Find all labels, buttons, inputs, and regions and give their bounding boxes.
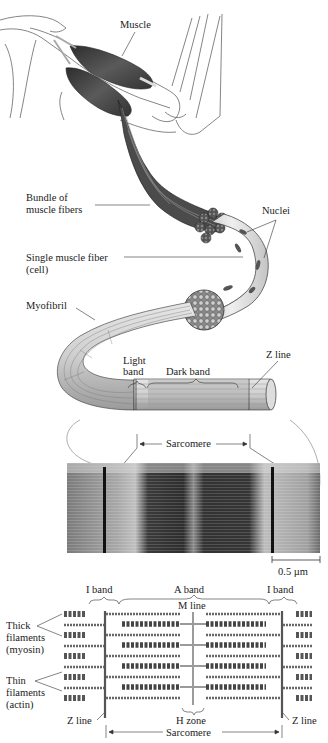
label-thick-line2: filaments xyxy=(6,632,45,644)
sarcomere-schematic xyxy=(64,611,312,718)
label-fiber-line2: (cell) xyxy=(26,264,48,276)
label-thick-line3: (myosin) xyxy=(6,644,44,656)
label-muscle: Muscle xyxy=(120,19,151,31)
label-thin-line2: filaments xyxy=(6,687,45,699)
myosin-filaments xyxy=(64,614,312,698)
label-fiber-line1: Single muscle fiber xyxy=(26,252,108,264)
label-bundle-line2: muscle fibers xyxy=(26,204,82,216)
single-muscle-fiber xyxy=(184,214,268,330)
label-h-zone: H zone xyxy=(176,715,206,727)
muscle-structure-illustration xyxy=(0,0,328,743)
label-light-band-line2: band xyxy=(123,366,143,378)
label-z-line-left: Z line xyxy=(67,715,92,727)
label-myofibril: Myofibril xyxy=(26,300,67,312)
label-scale-bar: 0.5 µm xyxy=(278,566,308,578)
electron-micrograph xyxy=(67,463,320,553)
label-a-band: A band xyxy=(174,584,204,596)
scale-bar xyxy=(272,556,320,563)
label-thin-line1: Thin xyxy=(6,675,26,687)
label-thick-line1: Thick xyxy=(6,620,31,632)
label-z-line-top: Z line xyxy=(266,349,291,361)
label-i-band-right: I band xyxy=(267,584,294,596)
label-i-band-left: I band xyxy=(86,584,113,596)
label-thin-line3: (actin) xyxy=(6,699,33,711)
myofibril xyxy=(57,302,276,410)
label-dark-band: Dark band xyxy=(166,366,210,378)
label-bundle-line1: Bundle of xyxy=(26,192,68,204)
muscle-belly xyxy=(54,36,156,116)
label-z-line-right: Z line xyxy=(292,715,317,727)
bundle-of-fibers xyxy=(118,100,227,243)
label-sarcomere-bottom: Sarcomere xyxy=(166,727,211,739)
label-m-line: M line xyxy=(178,600,206,612)
label-sarcomere-top: Sarcomere xyxy=(166,438,211,450)
label-nuclei: Nuclei xyxy=(262,205,290,217)
